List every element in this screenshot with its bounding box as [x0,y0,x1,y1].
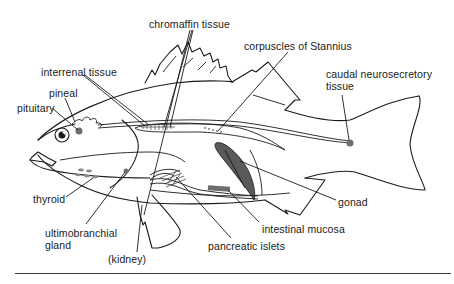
label-intestinal-mucosa: intestinal mucosa [262,223,345,235]
lower-jaw [30,160,150,178]
label-caudal-neurosecretory-1: caudal neurosecretory [326,68,432,80]
gut-loop [150,169,180,180]
leader-lines [52,30,349,252]
label-interrenal-tissue: interrenal tissue [41,66,117,78]
label-ultimobranchial-1: ultimobranchial [45,227,117,239]
label-pituitary: pituitary [17,102,55,114]
label-ultimobranchial-2: gland [45,239,71,251]
pelvic-fin [137,195,180,248]
leader-thyroid [66,178,93,197]
body-back [285,96,419,121]
spinal-cord-lower [98,124,350,143]
caudal-neurosecretory-organ [347,140,354,147]
label-gonad: gonad [338,196,368,208]
label-corpuscles-of-stannius: corpuscles of Stannius [244,40,352,52]
bottom-rule [15,273,451,274]
label-thyroid: thyroid [33,193,65,205]
dorsal-fin-soft [232,62,300,110]
head-lateral-line [60,152,185,162]
thyroid-organ [76,169,99,179]
brain [72,117,102,127]
head-upper [38,124,75,140]
dorsal-fin-ray [253,95,285,105]
label-pancreatic-islets: pancreatic islets [208,240,285,252]
label-pineal: pineal [49,87,78,99]
leader-stannius [218,52,288,131]
intestinal-mucosa-organ [208,185,230,192]
leader-caudal [342,95,349,140]
fin-rays [163,56,216,73]
gonad-organ [215,143,255,200]
caudal-fin [305,96,425,190]
label-kidney: (kidney) [108,253,146,265]
label-chromaffin-tissue: chromaffin tissue [149,18,230,30]
leader-pancreatic [176,177,231,238]
fish-endocrine-diagram: chromaffin tissue corpuscles of Stannius… [0,0,454,284]
label-caudal-neurosecretory-2: tissue [326,80,354,92]
